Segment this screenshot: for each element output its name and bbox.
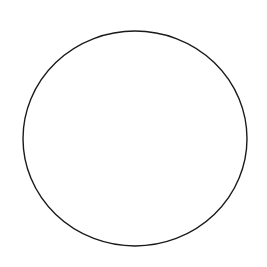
circle-outline [23, 31, 247, 246]
diagram-canvas [0, 0, 267, 267]
